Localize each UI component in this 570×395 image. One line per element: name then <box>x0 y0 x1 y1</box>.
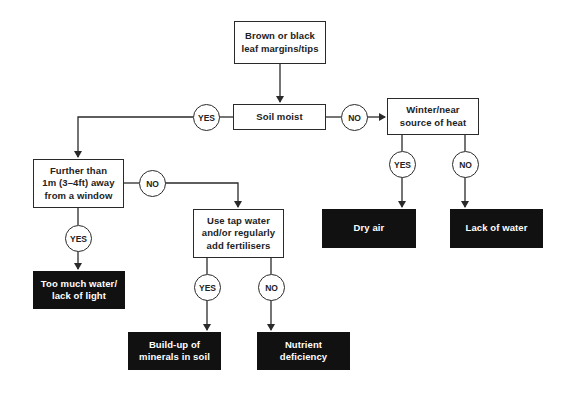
outcome-lack-of-water: Lack of water <box>450 209 543 248</box>
label-window-yes: YES <box>65 225 92 252</box>
outcome-too-much-water: Too much water/ lack of light <box>33 271 125 309</box>
outcome-dry-air: Dry air <box>322 209 416 248</box>
label-tap-water-yes: YES <box>194 274 221 301</box>
node-soil-moist: Soil moist <box>233 104 326 130</box>
node-distance-from-window: Further than 1m (3–4ft) away from a wind… <box>33 159 124 208</box>
label-soil-moist-yes: YES <box>193 104 220 131</box>
label-winter-yes: YES <box>389 151 416 178</box>
node-winter-heat: Winter/near source of heat <box>387 98 479 135</box>
label-tap-water-no: NO <box>258 274 285 301</box>
node-brown-leaf-tips: Brown or black leaf margins/tips <box>234 21 326 64</box>
outcome-mineral-build-up: Build-up of minerals in soil <box>128 332 221 370</box>
node-tap-water-fertilisers: Use tap water and/or regularly add ferti… <box>193 209 284 258</box>
label-window-no: NO <box>139 170 166 197</box>
flowchart-canvas: Brown or black leaf margins/tips Soil mo… <box>0 0 570 395</box>
label-winter-no: NO <box>452 151 479 178</box>
outcome-nutrient-deficiency: Nutrient deficiency <box>257 332 350 370</box>
label-soil-moist-no: NO <box>341 104 368 131</box>
